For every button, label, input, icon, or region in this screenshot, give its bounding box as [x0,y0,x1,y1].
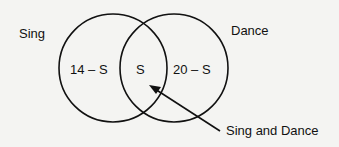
dance-label: Dance [231,23,269,38]
sing-only-region-label: 14 – S [70,62,108,77]
intersection-label: S [136,62,145,77]
sing-label: Sing [19,26,45,41]
callout-label: Sing and Dance [226,123,319,138]
dance-only-region-label: 20 – S [173,62,211,77]
venn-diagram: Sing Dance 14 – S S 20 – S Sing and Danc… [0,0,339,147]
callout-arrow-line [155,89,220,131]
